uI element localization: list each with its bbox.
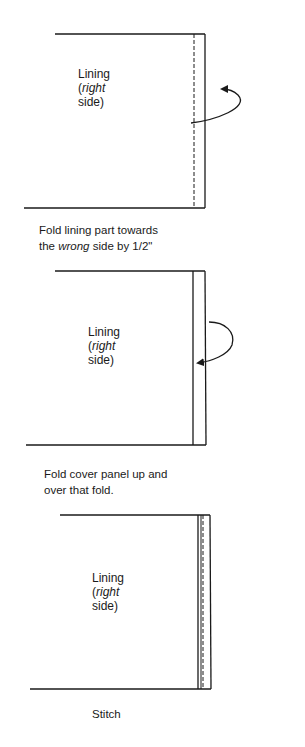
- panel-1-label: Lining (right side): [78, 67, 110, 109]
- panel-1-fabric: [24, 34, 205, 208]
- caption-line: Stitch: [92, 706, 121, 722]
- fold-over-arrow-icon: [198, 322, 233, 363]
- panel-3-label: Lining (right side): [92, 571, 124, 613]
- label-right: (right: [78, 81, 110, 95]
- label-side: side): [88, 353, 120, 367]
- caption-line: Fold lining part towards: [39, 222, 158, 238]
- step-2-caption: Fold cover panel up and over that fold.: [44, 466, 167, 498]
- step-3-caption: Stitch: [92, 706, 121, 722]
- label-right: (right: [92, 585, 124, 599]
- caption-line: over that fold.: [44, 482, 167, 498]
- sewing-diagram: [0, 0, 305, 747]
- step-1-caption: Fold lining part towards the wrong side …: [39, 222, 158, 254]
- caption-line: Fold cover panel up and: [44, 466, 167, 482]
- fold-arrow-icon: [191, 89, 240, 123]
- label-side: side): [92, 599, 124, 613]
- label-side: side): [78, 95, 110, 109]
- label-right: (right: [88, 339, 120, 353]
- label-lining: Lining: [92, 571, 124, 585]
- label-lining: Lining: [78, 67, 110, 81]
- panel-2-label: Lining (right side): [88, 325, 120, 367]
- label-lining: Lining: [88, 325, 120, 339]
- caption-line: the wrong side by 1/2": [39, 238, 158, 254]
